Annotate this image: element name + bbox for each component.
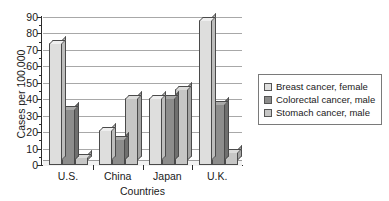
y-tick-mark — [37, 149, 42, 150]
bar — [199, 20, 212, 165]
bar-side-face — [212, 13, 216, 160]
y-tick-mark — [37, 116, 42, 117]
y-tick-mark — [37, 33, 42, 34]
legend-swatch-icon — [264, 96, 272, 104]
bar — [99, 130, 112, 165]
y-tick-mark — [37, 132, 42, 133]
x-tick-label: U.S. — [58, 170, 78, 182]
bar-side-face — [162, 91, 166, 160]
y-tick-mark — [37, 165, 42, 166]
y-tick-mark-minor — [39, 91, 42, 92]
bar-group — [43, 17, 93, 165]
y-tick-mark-minor — [39, 140, 42, 141]
y-tick-mark-minor — [39, 25, 42, 26]
legend-item: Colorectal cancer, male — [264, 93, 375, 106]
bar-side-face — [225, 97, 229, 160]
bar-side-face — [175, 91, 179, 160]
bar — [149, 98, 162, 165]
y-tick-mark-minor — [39, 58, 42, 59]
legend-item: Breast cancer, female — [264, 80, 375, 93]
y-tick-mark — [37, 17, 42, 18]
bar-group — [192, 17, 242, 165]
x-tick-label: China — [104, 170, 131, 182]
y-tick-mark — [37, 99, 42, 100]
x-tick-label: U.K. — [207, 170, 227, 182]
legend-label: Colorectal cancer, male — [276, 94, 375, 105]
y-tick-mark-minor — [39, 42, 42, 43]
y-tick-mark-minor — [39, 75, 42, 76]
y-tick-mark-minor — [39, 157, 42, 158]
bar-side-face — [188, 82, 192, 160]
x-axis-tick-labels: U.S.ChinaJapanU.K. — [43, 170, 242, 184]
legend-swatch-icon — [264, 109, 272, 117]
x-tick-label: Japan — [153, 170, 182, 182]
legend-label: Stomach cancer, male — [276, 107, 370, 118]
bar-side-face — [138, 91, 142, 160]
legend-label: Breast cancer, female — [276, 81, 368, 92]
plot-area — [43, 17, 242, 165]
bar-group — [93, 17, 143, 165]
bar — [75, 157, 88, 165]
y-tick-mark — [37, 50, 42, 51]
legend-item: Stomach cancer, male — [264, 106, 375, 119]
legend-swatch-icon — [264, 83, 272, 91]
bar-chart: Cases per 100,000 0102030405060708090 U.… — [0, 0, 389, 201]
x-axis-title: Countries — [43, 185, 242, 197]
bar-group — [143, 17, 193, 165]
bar-side-face — [62, 36, 66, 160]
y-tick-mark-minor — [39, 124, 42, 125]
y-axis-tick-labels: 0102030405060708090 — [12, 11, 38, 167]
y-tick-mark — [37, 83, 42, 84]
chart-legend: Breast cancer, femaleColorectal cancer, … — [258, 74, 382, 125]
y-tick-mark — [37, 66, 42, 67]
y-tick-mark-minor — [39, 107, 42, 108]
bar — [49, 43, 62, 165]
bar-side-face — [75, 102, 79, 160]
